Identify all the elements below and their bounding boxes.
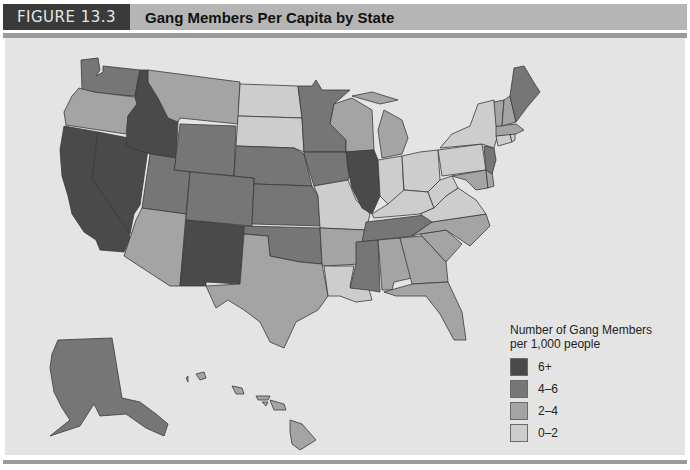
state-wyoming (174, 124, 236, 176)
map-legend: Number of Gang Members per 1,000 people … (510, 323, 680, 443)
legend-label: 4–6 (538, 382, 558, 396)
state-florida (384, 282, 466, 340)
legend-item-4-6: 4–6 (510, 379, 680, 399)
legend-swatch (510, 380, 528, 398)
legend-title-line1: Number of Gang Members (510, 323, 680, 337)
legend-label: 0–2 (538, 426, 558, 440)
state-alaska (50, 338, 168, 436)
figure-label: FIGURE 13.3 (3, 4, 130, 30)
state-washington (81, 58, 140, 96)
legend-swatch (510, 424, 528, 442)
legend-swatch (510, 358, 528, 376)
state-new-york (440, 100, 498, 148)
state-arizona (124, 208, 186, 286)
legend-item-6plus: 6+ (510, 357, 680, 377)
legend-swatch (510, 402, 528, 420)
legend-item-0-2: 0–2 (510, 423, 680, 443)
state-kansas (252, 184, 320, 226)
state-new-jersey (484, 146, 496, 174)
legend-label: 6+ (538, 360, 552, 374)
figure-title: Gang Members Per Capita by State (130, 4, 687, 30)
legend-label: 2–4 (538, 404, 558, 418)
map-panel: Number of Gang Members per 1,000 people … (5, 38, 685, 455)
legend-title-line2: per 1,000 people (510, 337, 680, 351)
figure-header: FIGURE 13.3 Gang Members Per Capita by S… (3, 4, 687, 30)
legend-item-2-4: 2–4 (510, 401, 680, 421)
state-maine (510, 66, 540, 122)
state-hawaii (186, 372, 316, 450)
state-north-dakota (238, 84, 302, 118)
state-new-mexico (180, 220, 244, 286)
state-colorado (186, 172, 254, 226)
bottom-rule (3, 460, 687, 464)
